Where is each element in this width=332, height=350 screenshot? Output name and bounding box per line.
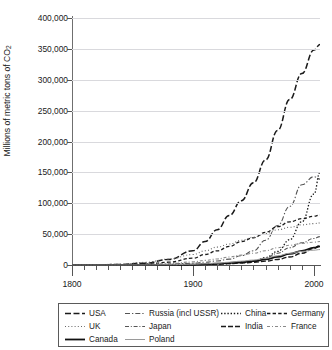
legend-item-germany[interactable]: Germany (267, 307, 325, 320)
x-tick-minor (169, 266, 170, 270)
y-tick-label: 350,000 (6, 45, 68, 53)
gridline (72, 49, 320, 50)
y-tick-label: 300,000 (6, 76, 68, 84)
legend-swatch (65, 323, 85, 330)
y-tick (67, 234, 72, 235)
legend-item-poland[interactable]: Poland (125, 333, 175, 346)
y-tick-label: 400,000 (6, 14, 68, 22)
legend-item-russia-incl-ussr[interactable]: Russia (incl USSR) (125, 307, 219, 320)
x-tick-minor (120, 266, 121, 270)
legend-swatch (221, 310, 241, 317)
y-tick-label: 200,000 (6, 138, 68, 146)
legend: USARussia (incl USSR)ChinaGermanyUKJapan… (58, 303, 329, 347)
x-tick-major (193, 266, 194, 276)
legend-label: UK (89, 322, 100, 331)
y-tick-label: 0 (6, 261, 68, 269)
y-tick (67, 49, 72, 50)
y-tick (67, 18, 72, 19)
legend-label: Canada (89, 335, 118, 344)
x-tick-minor (145, 266, 146, 270)
legend-item-china[interactable]: China (221, 307, 266, 320)
gridline (72, 203, 320, 204)
y-tick (67, 203, 72, 204)
legend-label: Germany (291, 309, 325, 318)
chart-page: Millions of metric tons of CO2 050,00010… (0, 0, 332, 350)
gridline (72, 234, 320, 235)
x-tick-minor (84, 266, 85, 270)
gridline (72, 111, 320, 112)
series-line (72, 246, 320, 265)
x-tick-major (314, 266, 315, 276)
y-tick-label: 100,000 (6, 199, 68, 207)
legend-label: Poland (149, 335, 175, 344)
series-line (72, 237, 320, 265)
x-tick-minor (205, 266, 206, 270)
x-axis: 180019002000 (72, 266, 322, 294)
gridline (72, 172, 320, 173)
legend-item-france[interactable]: France (267, 320, 316, 333)
legend-swatch (267, 323, 287, 330)
x-tick-minor (96, 266, 97, 270)
legend-item-japan[interactable]: Japan (125, 320, 171, 333)
gridline (72, 80, 320, 81)
x-tick-label: 2000 (294, 279, 332, 289)
chart-title (0, 0, 332, 1)
series-line (72, 45, 320, 265)
x-tick-minor (302, 266, 303, 270)
legend-label: USA (89, 309, 106, 318)
x-tick-minor (217, 266, 218, 270)
legend-row: USARussia (incl USSR)ChinaGermany (59, 307, 328, 320)
legend-label: Russia (incl USSR) (149, 309, 219, 318)
gridline (72, 142, 320, 143)
y-tick-label: 250,000 (6, 107, 68, 115)
x-tick-major (72, 266, 73, 276)
y-tick (67, 111, 72, 112)
x-tick-minor (290, 266, 291, 270)
legend-label: France (291, 322, 316, 331)
y-tick (67, 172, 72, 173)
plot-area (72, 18, 320, 265)
legend-item-canada[interactable]: Canada (65, 333, 118, 346)
y-tick (67, 80, 72, 81)
x-tick-minor (229, 266, 230, 270)
legend-swatch (65, 310, 85, 317)
y-tick-labels: 050,000100,000150,000200,000250,000300,0… (0, 18, 68, 265)
legend-label: Japan (149, 322, 171, 331)
x-tick-minor (278, 266, 279, 270)
legend-label: India (245, 322, 263, 331)
x-tick-minor (241, 266, 242, 270)
x-tick-label: 1900 (173, 279, 213, 289)
legend-item-india[interactable]: India (221, 320, 263, 333)
legend-swatch (125, 323, 145, 330)
x-tick-label: 1800 (52, 279, 92, 289)
legend-row: CanadaPoland (59, 333, 328, 346)
legend-row: UKJapanIndiaFrance (59, 320, 328, 333)
x-tick-minor (157, 266, 158, 270)
y-tick (67, 142, 72, 143)
x-tick-minor (266, 266, 267, 270)
legend-swatch (221, 323, 241, 330)
series-line (72, 242, 320, 265)
legend-item-usa[interactable]: USA (65, 307, 106, 320)
y-tick-label: 50,000 (6, 230, 68, 238)
legend-swatch (125, 336, 145, 343)
y-tick-label: 150,000 (6, 168, 68, 176)
gridline (72, 18, 320, 19)
series-line (72, 215, 320, 265)
legend-swatch (267, 310, 287, 317)
x-tick-minor (181, 266, 182, 270)
x-tick-minor (253, 266, 254, 270)
x-tick-minor (108, 266, 109, 270)
legend-item-uk[interactable]: UK (65, 320, 100, 333)
legend-label: China (245, 309, 266, 318)
x-tick-minor (132, 266, 133, 270)
legend-swatch (65, 336, 85, 343)
legend-swatch (125, 310, 145, 317)
